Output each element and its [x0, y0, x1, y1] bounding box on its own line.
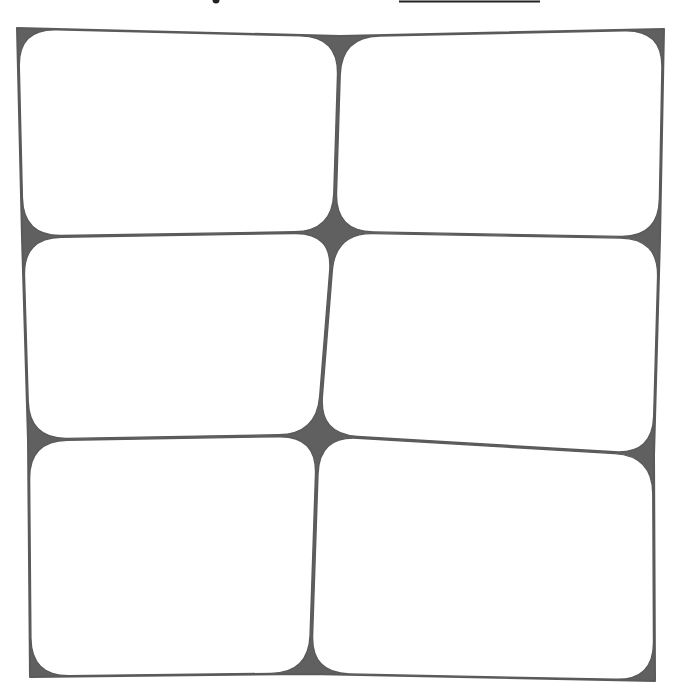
grid-drawing: [0, 0, 684, 698]
grid-cells: [19, 30, 662, 680]
cell-2: [336, 31, 661, 237]
cell-1: [19, 30, 337, 236]
cell-4: [322, 234, 657, 452]
cell-3: [24, 233, 329, 438]
cropped-dot-fragment: [213, 0, 220, 4]
cell-5: [30, 437, 316, 676]
top-text-fragments: [213, 0, 541, 4]
cell-6: [313, 438, 654, 679]
